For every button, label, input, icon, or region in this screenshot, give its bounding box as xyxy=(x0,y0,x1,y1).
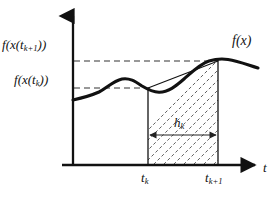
step-width-label-subscript: k xyxy=(181,121,185,131)
x-tick-label-tk-subscript: k xyxy=(145,176,149,186)
y-label-upper-subscript: k+1 xyxy=(24,43,38,53)
curve-label-close: ) xyxy=(247,33,252,48)
figure-canvas: f(x(tk+1)) f(x(tk)) f(x) hk tk tk+1 t xyxy=(0,0,277,200)
chord-line xyxy=(148,61,218,88)
diagram-svg xyxy=(0,0,277,200)
curve-label: f(x) xyxy=(232,34,251,48)
x-axis-label: t xyxy=(263,161,267,174)
y-label-lower-close1: ) xyxy=(44,72,48,87)
x-tick-label-tk1-subscript: k+1 xyxy=(209,176,223,186)
function-curve xyxy=(73,59,258,100)
step-width-label: hk xyxy=(174,116,184,131)
y-label-upper-close1: ) xyxy=(42,37,46,52)
y-label-upper: f(x(tk+1)) xyxy=(2,38,46,53)
x-tick-label-tk1: tk+1 xyxy=(205,171,223,186)
y-label-lower: f(x(tk)) xyxy=(14,73,48,88)
x-tick-label-tk: tk xyxy=(141,171,148,186)
